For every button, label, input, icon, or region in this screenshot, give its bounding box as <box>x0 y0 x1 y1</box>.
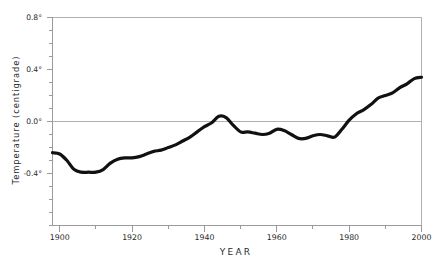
x-tick-label: 1960 <box>257 233 297 242</box>
x-tick-label: 1920 <box>112 233 152 242</box>
x-tick-label: 1900 <box>40 233 80 242</box>
y-tick-label: 0.8° <box>8 14 42 22</box>
x-axis-ticks <box>60 226 422 232</box>
x-tick-label: 1940 <box>184 233 224 242</box>
x-axis-title: YEAR <box>52 247 420 257</box>
x-tick-label: 1980 <box>329 233 369 242</box>
x-tick-label: 2000 <box>402 233 436 242</box>
y-axis-ticks <box>47 18 53 226</box>
y-tick-label: -0.4° <box>8 170 42 178</box>
y-tick-label: 0.4° <box>8 66 42 74</box>
y-tick-label: 0.0° <box>8 118 42 126</box>
temperature-series-line <box>53 77 422 172</box>
